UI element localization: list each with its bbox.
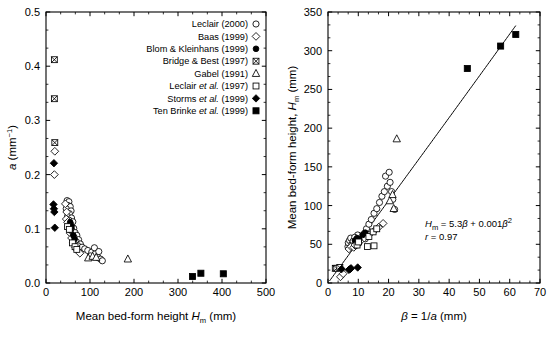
legend-label: Leclair (2000) <box>192 19 248 29</box>
data-point <box>51 57 57 63</box>
correlation-annotation: r = 0.97 <box>425 231 458 242</box>
filled-square-marker <box>189 273 195 279</box>
open-square-marker <box>66 226 72 232</box>
legend-marker <box>252 95 259 102</box>
x-tick-label: 400 <box>213 286 231 298</box>
x-tick-label: 0 <box>43 286 49 298</box>
legend-item-5[interactable]: Leclair et al. (1997) <box>169 81 259 91</box>
series-6 <box>338 264 361 274</box>
legend-label: Blom & Kleinhans (1999) <box>146 44 248 54</box>
data-point <box>386 169 392 175</box>
y-tick-label: 0.5 <box>25 6 40 18</box>
left-yaxis-label: a (mm−1) <box>5 125 18 170</box>
data-point <box>356 239 362 245</box>
right-panel-x-axis: 010203040506070 <box>325 12 546 298</box>
data-point <box>376 199 382 205</box>
filled-square-marker <box>498 43 504 49</box>
right-xaxis-label: β = 1/a (mm) <box>400 310 467 322</box>
x-tick-label: 300 <box>169 286 187 298</box>
fit-equation-annotation: Hm = 5.3β + 0.001β2 <box>425 216 512 232</box>
y-tick-label: 0.3 <box>25 114 40 126</box>
legend-item-3[interactable]: Bridge & Best (1997) <box>163 56 259 66</box>
right-data-points <box>332 31 518 280</box>
legend-item-4[interactable]: Gabel (1991) <box>194 69 259 79</box>
x-tick-label: 40 <box>443 286 455 298</box>
open-diamond-marker <box>252 33 260 41</box>
filled-square-marker <box>253 108 259 114</box>
data-point <box>513 31 519 37</box>
x-tick-label: 500 <box>257 286 275 298</box>
open-square-marker <box>374 226 380 232</box>
x-tick-label: 20 <box>382 286 394 298</box>
data-point <box>354 264 361 271</box>
series-7 <box>189 270 226 279</box>
data-point <box>364 244 370 250</box>
y-tick-label: 0.1 <box>25 223 40 235</box>
data-point <box>52 140 58 146</box>
y-tick-label: 350 <box>304 6 322 18</box>
filled-diamond-marker <box>354 264 361 271</box>
right-panel: 010203040506070050100150200250300350 <box>304 6 546 298</box>
filled-square-marker <box>220 271 226 277</box>
filled-square-marker <box>464 65 470 71</box>
legend-item-2[interactable]: Blom & Kleinhans (1999) <box>146 44 258 54</box>
filled-diamond-marker <box>252 95 259 102</box>
data-point <box>464 65 470 71</box>
data-point <box>198 270 204 276</box>
legend-label: Bridge & Best (1997) <box>163 56 248 66</box>
open-square-marker <box>356 239 362 245</box>
data-point <box>51 147 59 155</box>
data-point <box>124 255 131 262</box>
data-point <box>374 206 380 212</box>
open-diamond-marker <box>50 171 58 179</box>
data-source-legend: Leclair (2000)Baas (1999)Blom & Kleinhan… <box>146 19 260 116</box>
data-point <box>393 135 400 142</box>
data-point <box>51 96 57 102</box>
legend-item-6[interactable]: Storms et al. (1999) <box>167 94 259 104</box>
open-triangle-marker <box>393 135 400 142</box>
open-square-marker <box>364 244 370 250</box>
right-panel-y-axis: 050100150200250300350 <box>304 6 540 289</box>
data-point <box>220 271 226 277</box>
data-point <box>374 226 380 232</box>
data-point <box>50 171 58 179</box>
legend-label: Leclair et al. (1997) <box>169 81 248 91</box>
x-tick-label: 100 <box>81 286 99 298</box>
legend-item-7[interactable]: Ten Brinke et al. (1999) <box>153 106 259 116</box>
data-point <box>74 246 80 252</box>
open-circle-marker <box>368 216 374 222</box>
left-xaxis-label: Mean bed-form height Hm (mm) <box>76 310 237 325</box>
legend-item-0[interactable]: Leclair (2000) <box>192 19 259 29</box>
legend-item-1[interactable]: Baas (1999) <box>198 32 260 42</box>
right-yaxis-label: Mean bed-form height, Hm (mm) <box>286 66 301 230</box>
series-4 <box>85 252 132 262</box>
legend-marker <box>253 83 259 89</box>
y-tick-label: 200 <box>304 122 322 134</box>
y-tick-label: 100 <box>304 200 322 212</box>
data-point <box>368 216 374 222</box>
legend-marker <box>253 58 259 64</box>
y-tick-label: 250 <box>304 83 322 95</box>
series-6 <box>50 159 59 231</box>
x-tick-label: 30 <box>413 286 425 298</box>
series-7 <box>464 31 519 71</box>
data-point <box>51 224 58 231</box>
filled-circle-marker <box>253 46 259 52</box>
legend-marker <box>253 108 259 114</box>
filled-diamond-marker <box>51 224 58 231</box>
legend-label: Ten Brinke et al. (1999) <box>153 106 248 116</box>
filled-square-marker <box>198 270 204 276</box>
open-square-marker <box>253 83 259 89</box>
x-tick-label: 70 <box>534 286 546 298</box>
data-point <box>387 179 393 185</box>
figure-canvas: 01002003004005000.00.10.20.30.40.5Mean b… <box>0 0 552 342</box>
open-circle-marker <box>374 206 380 212</box>
data-point <box>66 226 72 232</box>
series-3 <box>51 57 57 146</box>
legend-label: Storms et al. (1999) <box>167 94 248 104</box>
legend-marker <box>252 69 259 76</box>
legend-marker <box>252 33 260 41</box>
open-triangle-marker <box>124 255 131 262</box>
filled-diamond-marker <box>50 159 57 166</box>
y-tick-label: 0.2 <box>25 169 40 181</box>
